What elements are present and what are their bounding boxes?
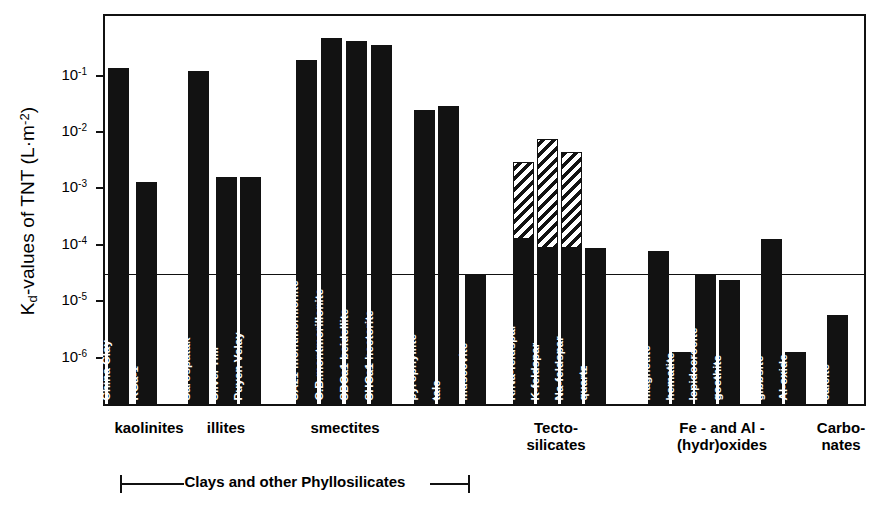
- bar-label: gibbsite: [753, 355, 765, 400]
- group-label: Tecto- silicates: [506, 420, 606, 454]
- y-axis-tick-label: 10-3: [25, 178, 87, 195]
- bar: goethite: [719, 280, 740, 404]
- bar: calcite: [827, 315, 848, 404]
- bar-label: calcite: [819, 363, 831, 400]
- bar-label: magnetite: [640, 345, 652, 400]
- bar: magnetite: [648, 251, 669, 404]
- bar-hatched-segment: [513, 162, 534, 239]
- bar: Puyen Velay: [240, 177, 261, 404]
- group-label: Carbo- nates: [800, 420, 882, 454]
- bar-label: SAz1 montmorillonite: [288, 280, 300, 400]
- bar: C.B.montmorillonite: [321, 38, 342, 404]
- bracket-line-left: [122, 483, 184, 485]
- bracket-line-right: [430, 483, 468, 485]
- bar-hatched-segment: [561, 152, 582, 248]
- bar-label: Silver Hill: [208, 346, 220, 400]
- group-label: illites: [178, 420, 274, 437]
- y-axis-title-mid: -values of TNT (L·m: [17, 125, 38, 295]
- bracket-label: Clays and other Phyllosilicates: [120, 473, 470, 490]
- y-axis-tick: [96, 75, 103, 77]
- bar-solid-segment: [561, 248, 582, 404]
- bar-label: Sarospatak: [180, 337, 192, 400]
- bar: Na-feldspar: [561, 152, 582, 404]
- bar: Silver Hill: [216, 177, 237, 404]
- bar-label: pyrophyllite: [406, 334, 418, 400]
- bar-label: muscovite: [457, 342, 469, 400]
- group-label: smectites: [280, 420, 410, 437]
- bar-label: KGa-1: [128, 366, 140, 400]
- y-axis-tick: [96, 357, 103, 359]
- y-axis-title-suffix: ): [17, 107, 38, 113]
- group-label: Fe - and Al - (hydr)oxides: [632, 420, 812, 454]
- chart-figure: Kd-values of TNT (L·m-2) 10-110-210-310-…: [0, 0, 883, 509]
- bar: pyrophyllite: [414, 110, 435, 404]
- y-axis-tick: [96, 187, 103, 189]
- y-axis-tick: [96, 131, 103, 133]
- bar: hematite: [672, 352, 693, 404]
- bar: Sarospatak: [188, 71, 209, 404]
- bar: talc: [438, 106, 459, 404]
- bracket-end-right: [468, 475, 470, 493]
- bar: KGa-1: [136, 182, 157, 404]
- y-axis-tick-label: 10-4: [25, 235, 87, 252]
- plot-inner: China ClayKGa-1SarospatakSilver HillPuye…: [105, 16, 864, 404]
- y-axis-title: Kd-values of TNT (L·m-2): [17, 31, 47, 391]
- y-axis-tick: [96, 244, 103, 246]
- bar: quartz: [585, 248, 606, 404]
- bar-label: China Clay: [100, 340, 112, 400]
- bar: SAz1 montmorillonite: [296, 60, 317, 404]
- y-axis-tick-label: 10-2: [25, 122, 87, 139]
- phyllosilicates-bracket: Clays and other Phyllosilicates: [120, 473, 470, 495]
- bar: gibbsite: [761, 239, 782, 404]
- bar: lepidocrocite: [695, 274, 716, 404]
- bar: China Clay: [108, 68, 129, 404]
- bar-solid-segment: [537, 248, 558, 404]
- plot-area: China ClayKGa-1SarospatakSilver HillPuye…: [103, 14, 866, 406]
- bar-solid-segment: [513, 239, 534, 404]
- bar: K-feldspar: [537, 139, 558, 404]
- y-axis-tick-label: 10-1: [25, 66, 87, 83]
- y-axis-tick-label: 10-6: [25, 348, 87, 365]
- bar-hatched-segment: [537, 139, 558, 248]
- y-axis-tick-label: 10-5: [25, 291, 87, 308]
- bar: Al-oxide: [785, 352, 806, 404]
- bar: SBCa1 beidellite: [346, 41, 367, 404]
- bar: K/Na-feldspar: [513, 162, 534, 404]
- y-axis-tick: [96, 300, 103, 302]
- bar: muscovite: [465, 275, 486, 404]
- bar: SHCa1 hectorite: [371, 45, 392, 404]
